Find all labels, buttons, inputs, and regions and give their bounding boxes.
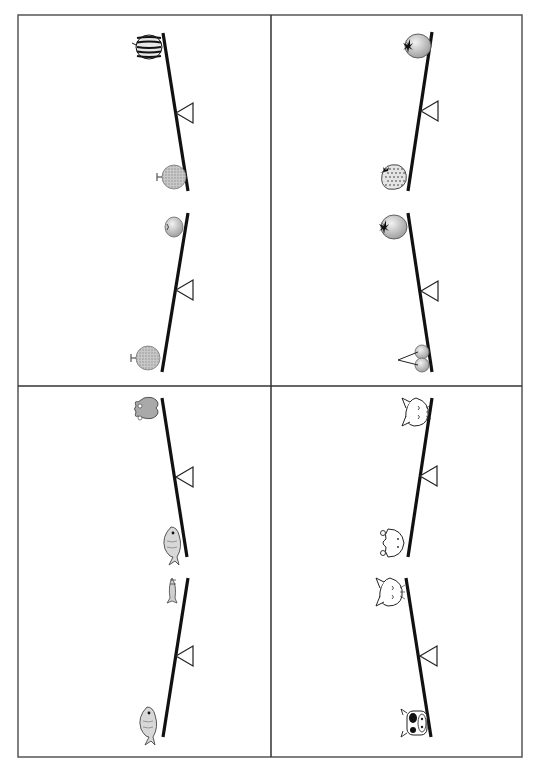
strawberry-icon — [380, 165, 406, 190]
worksheet-panels — [131, 32, 438, 745]
panel-top-right — [379, 32, 438, 372]
melon-icon — [157, 165, 186, 189]
seesaw-worksheet — [0, 0, 533, 764]
panel-top-left — [131, 33, 193, 372]
seesaw — [379, 213, 438, 372]
worksheet-grid — [18, 15, 522, 757]
tomato-icon — [379, 215, 407, 239]
panel-bottom-right — [376, 398, 437, 737]
fulcrum-triangle-icon — [176, 467, 193, 487]
fulcrum-triangle-icon — [421, 101, 438, 121]
fulcrum-triangle-icon — [176, 646, 193, 666]
cow-icon — [401, 709, 427, 737]
sea-bream-icon — [164, 527, 181, 565]
fulcrum-triangle-icon — [421, 281, 438, 301]
seesaw — [376, 578, 437, 737]
melon-icon — [131, 346, 160, 370]
cat-icon — [402, 398, 431, 426]
fulcrum-triangle-icon — [176, 103, 193, 123]
small-fish-icon — [167, 578, 177, 603]
watermelon-icon — [132, 35, 162, 59]
frog-icon — [135, 397, 159, 420]
fulcrum-triangle-icon — [420, 646, 437, 666]
tomato-icon — [403, 34, 431, 58]
seesaw — [132, 33, 193, 191]
seesaw — [381, 398, 438, 557]
seesaw — [380, 32, 438, 191]
seesaw — [140, 578, 193, 745]
cherries-icon — [398, 345, 429, 372]
sea-bream-icon — [140, 707, 157, 745]
seesaw — [135, 397, 194, 565]
hippo-icon — [381, 529, 405, 557]
fulcrum-triangle-icon — [176, 280, 193, 300]
cat-icon — [376, 578, 405, 606]
worksheet-canvas — [0, 0, 533, 764]
apple-icon — [165, 217, 183, 237]
seesaw — [131, 213, 193, 372]
panel-bottom-left — [135, 397, 194, 745]
